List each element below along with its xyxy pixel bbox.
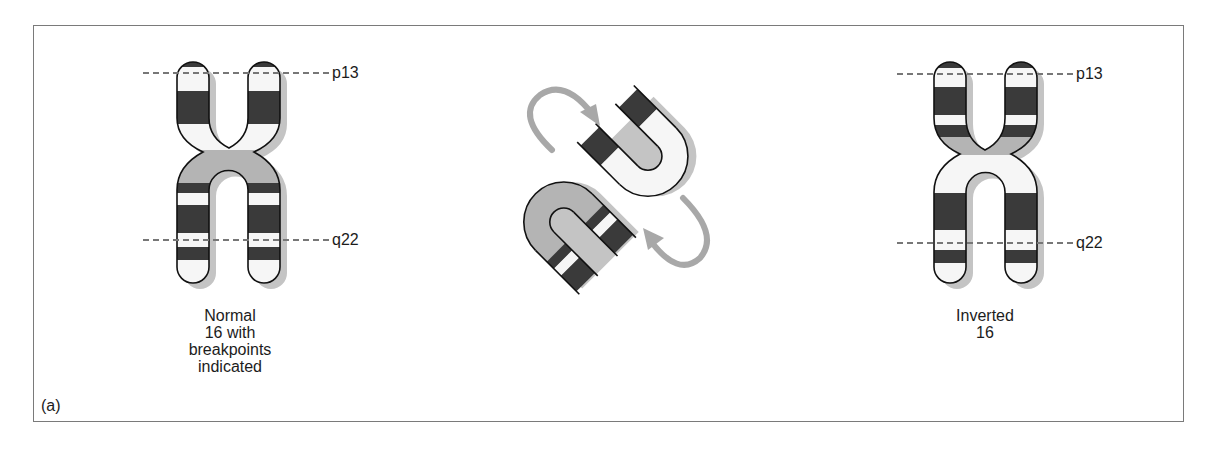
left-chromosome-caption: Normal 16 with breakpoints indicated <box>170 307 290 375</box>
right-chromosome <box>897 55 1074 295</box>
rotation-arrow-bottom-icon <box>643 198 707 265</box>
panel-label: (a) <box>41 397 61 415</box>
caption-line: Inverted <box>925 307 1045 324</box>
caption-line: breakpoints <box>170 341 290 358</box>
chromosome-diagram <box>0 0 1214 452</box>
right-q22-label: q22 <box>1076 235 1103 251</box>
left-q22-label: q22 <box>332 232 359 248</box>
right-p13-label: p13 <box>1076 66 1103 82</box>
caption-line: 16 <box>925 324 1045 341</box>
inversion-loop <box>507 81 713 294</box>
left-p13-label: p13 <box>332 65 359 81</box>
right-chromosome-caption: Inverted 16 <box>925 307 1045 341</box>
left-chromosome <box>143 55 330 295</box>
caption-line: Normal <box>170 307 290 324</box>
caption-line: 16 with <box>170 324 290 341</box>
caption-line: indicated <box>170 358 290 375</box>
